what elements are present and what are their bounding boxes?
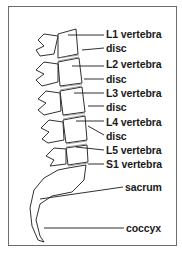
process-2 <box>36 62 58 86</box>
label-s1-vertebra: S1 vertebra <box>106 158 162 170</box>
process-1 <box>36 34 58 56</box>
l4-body <box>63 116 87 143</box>
l1-body <box>58 29 78 58</box>
label-l5-vertebra: L5 vertebra <box>106 144 162 156</box>
label-disc-4: disc <box>106 130 127 142</box>
process-3 <box>38 91 61 115</box>
l2-body <box>58 58 82 86</box>
label-l1-vertebra: L1 vertebra <box>106 28 162 40</box>
process-5 <box>46 148 66 166</box>
label-sacrum: sacrum <box>125 181 162 193</box>
label-coccyx: coccyx <box>126 222 161 234</box>
label-disc-2: disc <box>106 73 127 85</box>
process-4 <box>41 120 64 143</box>
label-l3-vertebra: L3 vertebra <box>106 87 162 99</box>
label-l2-vertebra: L2 vertebra <box>106 58 162 70</box>
label-disc-3: disc <box>106 101 127 113</box>
l3-body <box>60 87 85 115</box>
label-disc-1: disc <box>106 42 127 54</box>
label-l4-vertebra: L4 vertebra <box>106 116 162 128</box>
sacrum-shape <box>30 165 86 242</box>
